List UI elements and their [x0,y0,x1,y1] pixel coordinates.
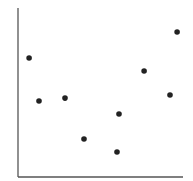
data-point [114,149,120,155]
scatter-chart [0,0,193,181]
data-points [26,29,180,155]
data-point [141,68,147,74]
data-point [26,55,32,61]
data-point [116,111,122,117]
data-point [167,92,173,98]
data-point [81,136,87,142]
data-point [174,29,180,35]
data-point [62,95,68,101]
data-point [36,98,42,104]
